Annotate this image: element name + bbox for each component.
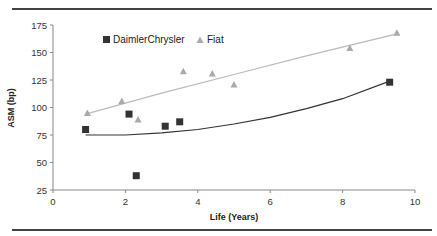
bottom-rule xyxy=(12,229,432,231)
x-tick-label: 0 xyxy=(50,196,55,207)
triangle-marker xyxy=(393,29,400,36)
x-tick-label: 2 xyxy=(123,196,128,207)
scatter-chart: 2550751001251501750246810 DaimlerChrysle… xyxy=(0,0,437,236)
legend-square-icon xyxy=(103,36,110,43)
x-axis-title: Life (Years) xyxy=(210,212,259,222)
x-tick-label: 4 xyxy=(195,196,200,207)
triangle-marker xyxy=(118,97,125,104)
square-marker xyxy=(126,111,133,118)
data-points xyxy=(82,29,400,179)
legend-label-fiat: Fiat xyxy=(207,34,224,45)
triangle-marker xyxy=(180,68,187,75)
triangle-marker xyxy=(231,81,238,88)
legend-triangle-icon xyxy=(197,37,204,44)
y-tick-label: 75 xyxy=(36,130,47,141)
y-tick-label: 100 xyxy=(31,102,47,113)
y-tick-label: 25 xyxy=(36,185,47,196)
x-tick-label: 6 xyxy=(268,196,273,207)
x-tick-label: 10 xyxy=(410,196,421,207)
triangle-marker xyxy=(209,70,216,77)
x-tick-label: 8 xyxy=(340,196,345,207)
y-tick-label: 150 xyxy=(31,47,47,58)
y-tick-label: 50 xyxy=(36,157,47,168)
y-tick-label: 175 xyxy=(31,20,47,31)
triangle-marker xyxy=(135,116,142,123)
legend-label-daimlerchrysler: DaimlerChrysler xyxy=(113,34,185,45)
square-marker xyxy=(176,118,183,125)
y-axis-title: ASM (bp) xyxy=(6,88,16,128)
square-marker xyxy=(162,123,169,130)
square-marker xyxy=(82,126,89,133)
daimlerchrysler-trendline xyxy=(86,81,390,135)
legend: DaimlerChryslerFiat xyxy=(103,34,224,45)
y-tick-label: 125 xyxy=(31,75,47,86)
square-marker xyxy=(386,79,393,86)
square-marker xyxy=(133,172,140,179)
